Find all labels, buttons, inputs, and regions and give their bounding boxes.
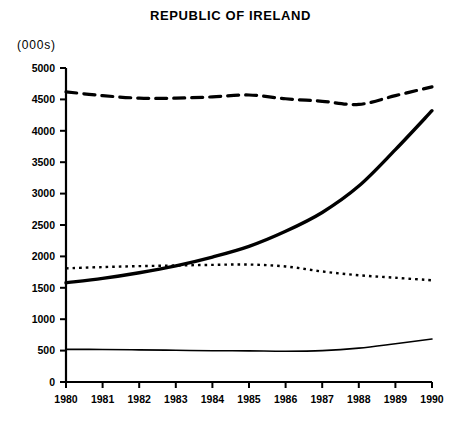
x-tick-label: 1983 <box>164 393 188 405</box>
chart-container: REPUBLIC OF IRELAND (000s) 0500100015002… <box>0 0 461 427</box>
y-tick-label: 3500 <box>32 156 56 168</box>
y-tick-label: 0 <box>49 376 55 388</box>
y-tick-label: 5000 <box>32 62 56 74</box>
series-thin-bottom <box>66 339 432 351</box>
x-tick-label: 1982 <box>128 393 152 405</box>
x-tick-label: 1989 <box>384 393 408 405</box>
x-tick-label: 1986 <box>274 393 298 405</box>
y-tick-label: 3000 <box>32 187 56 199</box>
y-tick-label: 4000 <box>32 125 56 137</box>
x-tick-label: 1990 <box>420 393 444 405</box>
data-series-layer <box>66 87 432 351</box>
plot-area: 0500100015002000250030003500400045005000… <box>0 0 461 427</box>
y-tick-label: 500 <box>37 344 55 356</box>
x-tick-label: 1988 <box>347 393 371 405</box>
series-dotted-middle <box>66 264 432 280</box>
axes-group <box>66 68 432 382</box>
y-tick-label: 2500 <box>32 219 56 231</box>
x-tick-label: 1980 <box>54 393 78 405</box>
series-thick-rising <box>66 111 432 283</box>
x-tick-label: 1985 <box>237 393 261 405</box>
x-tick-label: 1984 <box>201 393 225 405</box>
series-dashed-top <box>66 87 432 105</box>
y-tick-label: 2000 <box>32 250 56 262</box>
y-tick-label: 4500 <box>32 93 56 105</box>
y-tick-label: 1000 <box>32 313 56 325</box>
x-axis-ticks: 1980198119821983198419851986198719881989… <box>54 382 444 405</box>
y-axis-ticks: 0500100015002000250030003500400045005000 <box>32 62 66 388</box>
x-tick-label: 1981 <box>91 393 115 405</box>
x-tick-label: 1987 <box>311 393 335 405</box>
y-tick-label: 1500 <box>32 282 56 294</box>
